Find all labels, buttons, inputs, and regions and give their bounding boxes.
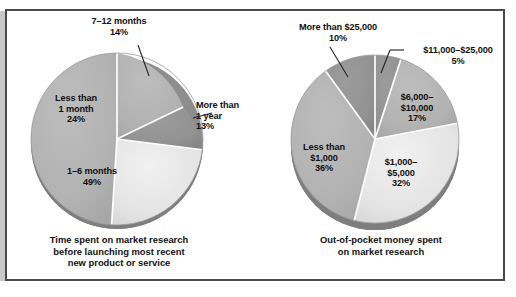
figure-root: 7–12 months 14% Less than 1 month 24% Mo… — [0, 0, 516, 297]
label-more-than-1-year: More than 1 year 13% — [196, 100, 258, 132]
slice-less-than-1-month — [31, 53, 117, 225]
left-pie-slices — [31, 53, 203, 225]
charts-container: 7–12 months 14% Less than 1 month 24% Mo… — [0, 0, 516, 297]
label-7-12-months: 7–12 months 14% — [76, 16, 162, 37]
label-1-6-months: 1–6 months 49% — [48, 166, 136, 187]
label-11000-25000: $11,000–$25,000 5% — [404, 45, 512, 66]
caption-time-spent: Time spent on market research before lau… — [24, 234, 214, 269]
label-more-than-25000: More than $25,000 10% — [282, 22, 394, 43]
label-1000-5000: $1,000– $5,000 32% — [372, 157, 430, 189]
label-less-than-1000: Less than $1,000 36% — [292, 142, 356, 174]
label-less-than-1-month: Less than 1 month 24% — [36, 93, 116, 125]
caption-money-spent: Out-of-pocket money spent on market rese… — [288, 234, 474, 257]
label-6000-10000: $6,000– $10,000 17% — [386, 92, 448, 124]
right-pie-slices — [291, 55, 459, 223]
